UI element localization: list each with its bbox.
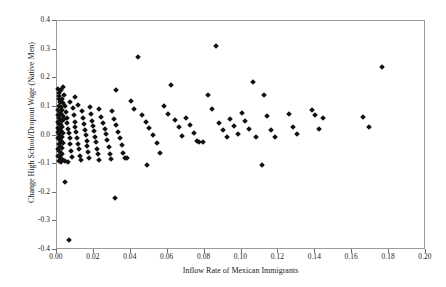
data-point [154,140,160,146]
data-point [259,162,265,168]
data-point [191,130,197,136]
y-axis-tick [52,135,56,136]
data-point [205,92,211,98]
data-point [87,104,93,110]
y-axis-title: Change High School/Dropout Wage (Native … [27,8,36,238]
y-axis-tick [52,192,56,193]
data-point [96,157,102,163]
data-point [165,111,171,117]
data-point [72,94,78,100]
y-axis-tick [52,106,56,107]
x-axis-tick-label: 0.10 [225,252,257,261]
data-point [81,121,87,127]
data-point [146,125,152,131]
data-point [176,125,182,131]
y-axis-tick [52,163,56,164]
data-point [104,137,110,143]
data-point [239,110,245,116]
data-point [97,106,103,112]
data-point [290,124,296,130]
data-point [183,115,189,121]
x-axis-tick-label: 0.08 [188,252,220,261]
data-points-layer [57,21,424,248]
data-point [312,113,318,119]
data-point [172,117,178,123]
data-point [62,92,68,98]
data-point [157,150,163,156]
y-axis-tick [52,49,56,50]
data-point [246,126,252,132]
data-point [231,123,237,129]
data-point [228,116,234,122]
data-point [124,155,130,161]
data-point [109,156,115,162]
y-axis-tick [52,249,56,250]
data-point [144,162,150,168]
data-point [113,87,119,93]
data-point [70,105,76,111]
data-point [209,106,215,112]
data-point [261,93,267,99]
data-point [78,157,84,163]
data-point [110,108,116,114]
data-point [272,134,278,140]
data-point [113,122,119,128]
data-point [79,108,85,114]
x-axis-tick-label: 0.20 [409,252,441,261]
data-point [294,132,300,138]
x-axis-tick-label: 0.18 [372,252,404,261]
data-point [69,154,75,160]
x-axis-tick-label: 0.14 [298,252,330,261]
data-point [242,118,248,124]
data-point [128,98,134,104]
data-point [187,122,193,128]
data-point [88,111,94,117]
data-point [268,127,274,133]
data-point [379,65,385,71]
data-point [106,144,112,150]
data-point [200,139,206,145]
data-point [98,114,104,120]
data-point [119,142,125,148]
data-point [316,126,322,132]
data-point [111,116,117,122]
y-axis-tick [52,20,56,21]
data-point [76,146,82,152]
data-point [180,133,186,139]
data-point [67,141,73,147]
data-point [135,54,141,60]
data-point [66,237,72,243]
data-point [217,120,223,126]
scatter-chart-figure: 0.000.020.040.060.080.100.120.140.160.18… [0,0,446,287]
data-point [366,125,372,131]
data-point [117,136,123,142]
data-point [320,115,326,121]
x-axis-tick-label: 0.06 [151,252,183,261]
data-point [83,132,89,138]
data-point [75,102,81,108]
data-point [264,113,270,119]
data-point [86,156,92,162]
data-point [253,134,259,140]
data-point [161,103,167,109]
data-point [63,179,69,185]
data-point [287,111,293,117]
x-axis-tick-label: 0.16 [335,252,367,261]
data-point [67,99,73,105]
data-point [95,152,101,158]
x-axis-tick-label: 0.12 [261,252,293,261]
data-point [80,115,86,121]
y-axis-tick-label: -0.4 [20,244,50,253]
data-point [360,114,366,120]
data-point [62,103,68,109]
y-axis-tick [52,220,56,221]
x-axis-tick-label: 0.04 [114,252,146,261]
data-point [132,106,138,112]
data-point [224,134,230,140]
data-point [169,82,175,88]
data-point [250,79,256,85]
y-axis-tick [52,77,56,78]
data-point [74,135,80,141]
plot-area [56,20,425,249]
data-point [220,127,226,133]
